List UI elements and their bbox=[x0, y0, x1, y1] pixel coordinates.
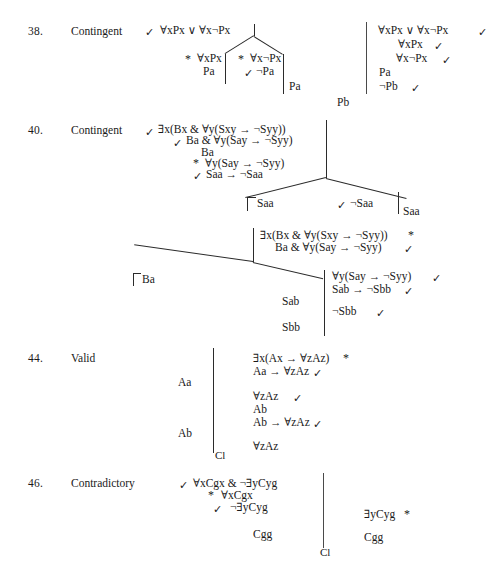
branch-line bbox=[213, 348, 214, 453]
check-mark-icon: ✓ bbox=[313, 418, 322, 430]
branch-formula: ∀zAz bbox=[253, 440, 278, 453]
check-mark-icon: ✓ bbox=[434, 40, 443, 52]
branch-formula: Aa → ∀zAz bbox=[253, 365, 309, 378]
open-leaf-label: Pb bbox=[337, 96, 349, 109]
check-mark-icon: ✓ bbox=[193, 170, 202, 182]
open-leaf-label: Sbb bbox=[282, 321, 300, 334]
problem-number: 40. bbox=[28, 124, 43, 136]
open-leaf-label: Ba bbox=[142, 273, 155, 286]
check-mark-icon: ✓ bbox=[376, 307, 385, 319]
branch-formula: ∀xPx bbox=[197, 52, 222, 65]
left-branch-bracket bbox=[133, 273, 141, 286]
right-branch-line bbox=[324, 270, 325, 336]
asterisk-icon: * bbox=[343, 351, 349, 366]
tree-branch-right-diagonal bbox=[326, 178, 407, 199]
tree-branch-stem bbox=[254, 24, 255, 36]
check-mark-icon: ✓ bbox=[404, 285, 413, 297]
branch-formula: Pa bbox=[203, 65, 215, 78]
branch-formula: ∀y(Say → ¬Syy) bbox=[332, 270, 411, 283]
asterisk-icon: * bbox=[185, 52, 191, 67]
answer-key-page: 38. Contingent ✓ ∀xPx ∨ ∀x¬Px * ∀xPx Pa … bbox=[0, 0, 502, 564]
branch-formula: Ab bbox=[253, 403, 267, 416]
asterisk-icon: * bbox=[408, 228, 414, 243]
check-mark-icon: ✓ bbox=[442, 54, 451, 66]
left-branch-line bbox=[225, 54, 226, 84]
problem-verdict: Contingent bbox=[71, 124, 122, 136]
right-tree-formula: ∀x¬Px bbox=[396, 52, 427, 65]
check-mark-icon: ✓ bbox=[478, 26, 487, 38]
check-mark-icon: ✓ bbox=[145, 26, 154, 38]
branch-formula: ∀x¬Px bbox=[250, 52, 281, 65]
tree-branch-stem bbox=[253, 228, 254, 262]
asterisk-icon: * bbox=[208, 488, 214, 503]
left-column-label: Aa bbox=[178, 376, 191, 389]
problem-number: 46. bbox=[28, 477, 43, 489]
open-leaf-label: Sab bbox=[282, 295, 299, 308]
right-tree-formula: ¬Pb bbox=[379, 80, 398, 93]
asterisk-icon: * bbox=[193, 156, 199, 171]
problem-number: 38. bbox=[28, 25, 43, 37]
open-leaf-label: Pa bbox=[289, 80, 301, 93]
branch-formula: ¬Sbb bbox=[332, 305, 356, 318]
tree-branch-left-diagonal bbox=[134, 244, 253, 262]
tree-branch-right-diagonal bbox=[253, 262, 323, 279]
left-branch-bracket bbox=[247, 197, 256, 211]
open-leaf-label: Saa bbox=[403, 205, 420, 218]
problem-verdict: Contingent bbox=[71, 25, 122, 37]
branch-formula: Ab → ∀zAz bbox=[253, 416, 310, 429]
branch-formula: ∃yCyg bbox=[364, 508, 395, 521]
check-mark-icon: ✓ bbox=[432, 272, 441, 284]
check-mark-icon: ✓ bbox=[293, 392, 302, 404]
problem-verdict: Contradictory bbox=[71, 477, 135, 489]
branch-formula: ¬Pa bbox=[256, 65, 274, 78]
left-column-label: Ab bbox=[178, 427, 192, 440]
check-mark-icon: ✓ bbox=[179, 479, 188, 491]
check-mark-icon: ✓ bbox=[145, 126, 154, 138]
closed-branch-marker: Cl bbox=[215, 449, 225, 461]
problem-verdict: Valid bbox=[71, 352, 95, 364]
right-tree-formula: Pa bbox=[379, 66, 391, 79]
asterisk-icon: * bbox=[238, 52, 244, 67]
branch-formula: ¬∃yCyg bbox=[230, 501, 268, 514]
branch-formula: Sab → ¬Sbb bbox=[332, 283, 391, 296]
check-mark-icon: ✓ bbox=[244, 67, 253, 79]
check-mark-icon: ✓ bbox=[173, 137, 182, 149]
check-mark-icon: ✓ bbox=[337, 199, 346, 211]
right-branch-line bbox=[283, 54, 284, 94]
right-tree-formula: ∀xPx bbox=[398, 38, 423, 51]
open-leaf-label: Cgg bbox=[364, 531, 383, 544]
check-mark-icon: ✓ bbox=[411, 82, 420, 94]
asterisk-icon: * bbox=[404, 507, 410, 522]
branch-line bbox=[323, 473, 324, 548]
problem-number: 44. bbox=[28, 352, 43, 364]
right-branch-line bbox=[398, 192, 399, 214]
trunk-formula: ∀xPx ∨ ∀x¬Px bbox=[160, 24, 230, 37]
tree-branch-stem bbox=[326, 120, 327, 178]
check-mark-icon: ✓ bbox=[213, 503, 222, 515]
trunk-formula: Saa → ¬Saa bbox=[206, 168, 263, 181]
branch-formula: ¬Saa bbox=[350, 197, 373, 210]
open-leaf-label: Cgg bbox=[253, 528, 272, 541]
branch-formula: ∀zAz bbox=[253, 390, 278, 403]
branch-formula: ∃x(Ax → ∀zAz) bbox=[253, 352, 329, 365]
right-tree-formula: ∀xPx ∨ ∀x¬Px bbox=[378, 24, 448, 37]
branch-formula: Saa bbox=[257, 197, 274, 210]
tree-divider bbox=[366, 22, 367, 94]
closed-branch-marker: Cl bbox=[320, 546, 330, 558]
check-mark-icon: ✓ bbox=[313, 367, 322, 379]
trunk-formula: Ba & ∀y(Say → ¬Syy) bbox=[275, 241, 382, 254]
check-mark-icon: ✓ bbox=[404, 243, 413, 255]
